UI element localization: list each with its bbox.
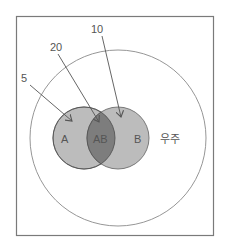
label-ab: AB [93,133,108,145]
annotation-20: 20 [50,41,62,53]
label-a: A [61,133,69,145]
venn-diagram: 5 20 10 A AB B 우주 [0,0,228,249]
annotation-10: 10 [91,23,103,35]
label-b: B [134,133,141,145]
annotation-5: 5 [21,72,27,84]
universe-label: 우주 [160,133,180,146]
